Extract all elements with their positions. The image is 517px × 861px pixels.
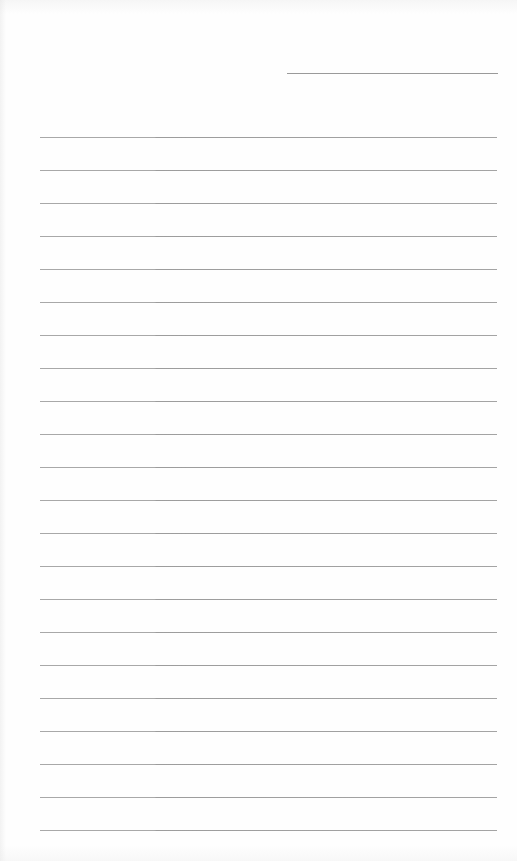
ruled-line (40, 302, 497, 303)
ruled-line (40, 368, 497, 369)
ruled-line (40, 335, 497, 336)
ruled-line (40, 500, 497, 501)
ruled-line (40, 434, 497, 435)
ruled-line (40, 401, 497, 402)
ruled-line (40, 566, 497, 567)
ruled-line (40, 599, 497, 600)
ruled-line (40, 137, 497, 138)
ruled-line (40, 269, 497, 270)
ruled-line (40, 797, 497, 798)
lined-paper-page (0, 0, 517, 861)
left-edge-shadow (0, 0, 6, 861)
ruled-line (40, 632, 497, 633)
ruled-line (40, 764, 497, 765)
ruled-line (40, 203, 497, 204)
ruled-line (40, 830, 497, 831)
ruled-line (40, 731, 497, 732)
header-name-line (287, 73, 498, 74)
bottom-edge-shadow (0, 845, 517, 861)
ruled-line (40, 533, 497, 534)
ruled-line (40, 698, 497, 699)
ruled-line (40, 665, 497, 666)
ruled-line (40, 467, 497, 468)
top-edge-shadow (0, 0, 517, 14)
ruled-line (40, 236, 497, 237)
ruled-line (40, 170, 497, 171)
